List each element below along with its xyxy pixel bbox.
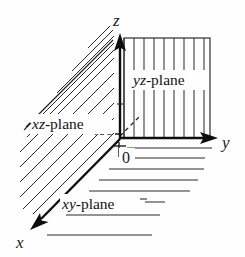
xy-plane-label: xy-plane	[60, 194, 147, 214]
xz-plane-label-suffix: -plane	[45, 115, 84, 132]
origin-label-text: 0	[122, 149, 130, 166]
xz-plane-label: xz-plane	[24, 114, 112, 134]
yz-plane-label-suffix: -plane	[146, 71, 185, 88]
x-axis-label: x	[15, 233, 24, 252]
coordinate-planes-diagram: yz-plane xz-plane xy-plane 0 z y x	[0, 0, 245, 257]
figure-root: yz-plane xz-plane xy-plane 0 z y x	[0, 0, 245, 257]
yz-plane-label: yz-plane	[130, 70, 206, 90]
xz-plane-label-text: xz-plane	[31, 115, 84, 132]
xy-plane-label-text: xy-plane	[61, 195, 115, 212]
z-axis-label: z	[112, 11, 120, 30]
yz-plane-label-text: yz-plane	[131, 71, 185, 88]
xy-plane-label-prefix: xy	[61, 195, 76, 212]
y-axis-label: y	[220, 133, 230, 152]
xz-plane-label-prefix: xz	[31, 115, 45, 132]
xy-plane-label-suffix: -plane	[76, 195, 115, 212]
origin-label: 0	[119, 148, 135, 167]
yz-plane-label-prefix: yz	[131, 71, 146, 88]
